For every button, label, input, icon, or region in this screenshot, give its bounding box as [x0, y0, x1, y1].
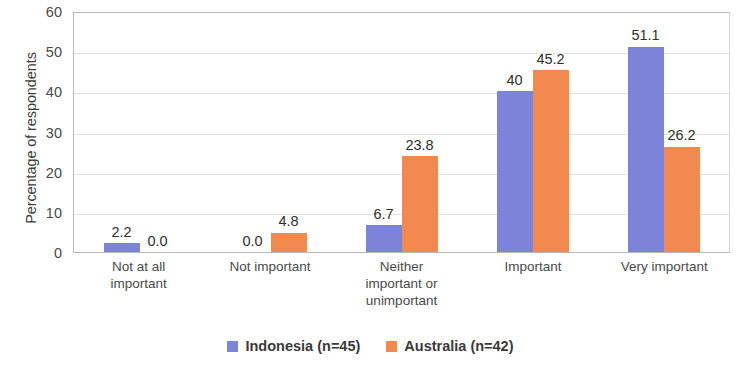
bar-value-label: 26.2 [667, 128, 695, 143]
bar-value-label: 40 [506, 73, 522, 88]
legend-item[interactable]: Indonesia (n=45) [227, 338, 360, 354]
bar-value-label: 0.0 [242, 234, 262, 249]
x-axis-category-label-line: important [75, 275, 202, 292]
bar-value-label: 51.1 [631, 28, 659, 43]
legend-label: Indonesia (n=45) [245, 338, 360, 354]
bar-group: 0.04.8 [205, 13, 336, 252]
x-axis-category-label-line: Not important [206, 258, 333, 275]
x-axis-category-label: Not important [204, 258, 335, 330]
bar[interactable] [497, 91, 533, 252]
bar-value-label: 0.0 [147, 234, 167, 249]
bar[interactable] [402, 156, 438, 252]
x-axis-category-label: Important [467, 258, 598, 330]
y-axis-tick: 0 [24, 245, 68, 261]
x-axis-category-labels: Not at allimportantNot importantNeitheri… [73, 258, 730, 330]
y-axis-tick: 40 [24, 84, 68, 100]
y-axis-tick: 30 [24, 125, 68, 141]
x-axis-category-label: Neitherimportant orunimportant [336, 258, 467, 330]
legend: Indonesia (n=45)Australia (n=42) [0, 338, 741, 354]
bar-value-label: 4.8 [278, 214, 298, 229]
x-axis-category-label-line: Important [469, 258, 596, 275]
y-axis-tick: 60 [24, 4, 68, 20]
bar-group: 4045.2 [467, 13, 598, 252]
x-axis-category-label: Not at allimportant [73, 258, 204, 330]
legend-swatch-icon [227, 341, 238, 352]
plot-area: 2.20.00.04.86.723.84045.251.126.2 [73, 12, 730, 253]
legend-label: Australia (n=42) [404, 338, 513, 354]
x-axis-category-label: Very important [599, 258, 730, 330]
x-axis-category-label-line: Neither [338, 258, 465, 275]
bar-groups: 2.20.00.04.86.723.84045.251.126.2 [74, 13, 729, 252]
bar[interactable] [366, 225, 402, 252]
bar-group: 51.126.2 [598, 13, 729, 252]
x-axis-category-label-line: unimportant [338, 292, 465, 309]
legend-item[interactable]: Australia (n=42) [386, 338, 513, 354]
y-axis-tick: 50 [24, 44, 68, 60]
bar-group: 6.723.8 [336, 13, 467, 252]
y-axis-tick-labels: 6050403020100 [24, 0, 68, 369]
bar-chart: Percentage of respondents 6050403020100 … [0, 0, 741, 369]
bar[interactable] [664, 147, 700, 252]
x-axis-category-label-line: Very important [601, 258, 728, 275]
bar-group: 2.20.0 [74, 13, 205, 252]
legend-swatch-icon [386, 341, 397, 352]
bar[interactable] [628, 47, 664, 252]
bar[interactable] [104, 243, 140, 252]
x-axis-category-label-line: important or [338, 275, 465, 292]
x-axis-category-label-line: Not at all [75, 258, 202, 275]
bar[interactable] [533, 70, 569, 252]
bar-value-label: 23.8 [405, 138, 433, 153]
bar-value-label: 45.2 [536, 52, 564, 67]
bar-value-label: 2.2 [111, 225, 131, 240]
y-axis-tick: 10 [24, 205, 68, 221]
bar-value-label: 6.7 [373, 207, 393, 222]
bar[interactable] [271, 233, 307, 252]
y-axis-tick: 20 [24, 165, 68, 181]
